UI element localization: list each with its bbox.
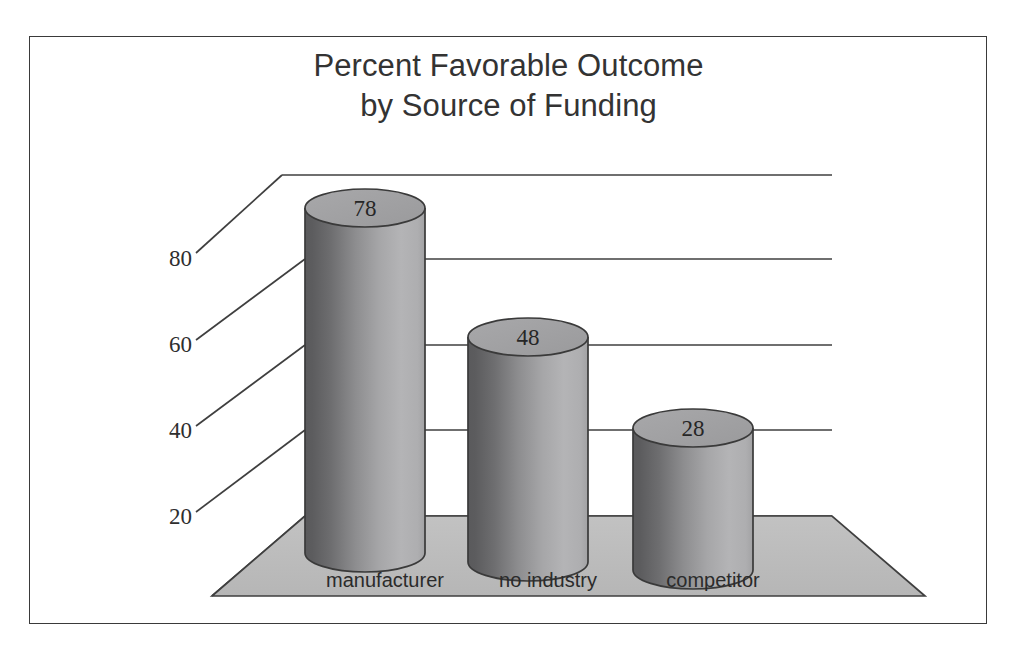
bar-cylinder-manufacturer[interactable] [305,189,425,572]
tick-connector-40 [196,430,305,512]
data-label-competitor: 28 [653,417,733,440]
y-tick-label-60: 60 [138,333,192,356]
category-label-competitor: competitor [623,570,803,590]
y-tick-label-20: 20 [138,505,192,528]
chart-figure: Percent Favorable Outcome by Source of F… [0,0,1017,651]
tick-connector-80 [196,259,305,340]
y-tick-label-40: 40 [138,419,192,442]
category-label-no-industry: no industry [458,570,638,590]
data-label-manufacturer: 78 [325,197,405,220]
tick-connector-top [196,175,282,253]
tick-connector-60 [196,345,305,426]
bar-body-no-industry [468,337,588,581]
category-label-manufacturer: manufacturer [295,570,475,590]
bar-body-manufacturer [305,208,425,572]
y-tick-label-80: 80 [138,247,192,270]
data-label-no-industry: 48 [488,326,568,349]
bar-body-competitor [633,428,753,589]
bar-cylinder-no-industry[interactable] [468,318,588,581]
